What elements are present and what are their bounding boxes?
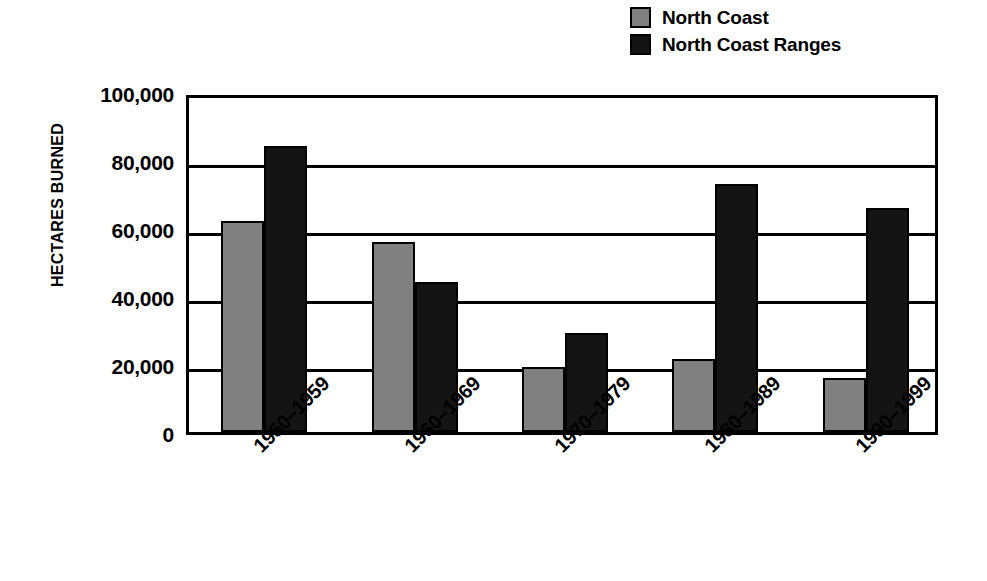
y-axis-tick-label: 80,000 xyxy=(0,151,174,175)
y-axis-tick-label: 40,000 xyxy=(0,287,174,311)
y-axis-tick-label: 60,000 xyxy=(0,219,174,243)
bars-layer xyxy=(189,98,935,432)
legend-swatch-icon-north-coast-ranges xyxy=(630,34,651,55)
legend-label-north-coast-ranges: North Coast Ranges xyxy=(662,34,841,56)
plot-area xyxy=(186,95,938,435)
bar-north-coast-1990-1999 xyxy=(823,378,866,432)
y-axis-tick-label: 100,000 xyxy=(0,83,174,107)
legend-swatch-icon-north-coast xyxy=(630,7,651,28)
bar-chart-figure: North Coast North Coast Ranges HECTARES … xyxy=(0,0,987,581)
bar-north-coast-1960-1969 xyxy=(372,242,415,432)
x-axis-tick-label: 1970–1979 xyxy=(550,441,566,457)
bar-north-coast-1980-1989 xyxy=(672,359,715,432)
legend-item-north-coast: North Coast xyxy=(630,4,970,31)
legend-label-north-coast: North Coast xyxy=(662,7,769,29)
x-axis-tick-label: 1960–1969 xyxy=(400,441,416,457)
x-axis-tick-label: 1980–1989 xyxy=(700,441,716,457)
y-axis-tick-label: 20,000 xyxy=(0,355,174,379)
y-axis-tick-labels: 020,00040,00060,00080,000100,000 xyxy=(0,95,174,435)
x-axis-tick-label: 1990–1999 xyxy=(851,441,867,457)
chart-legend: North Coast North Coast Ranges xyxy=(630,4,970,58)
legend-item-north-coast-ranges: North Coast Ranges xyxy=(630,31,970,58)
bar-north-coast-1970-1979 xyxy=(522,367,565,432)
x-axis-tick-labels: 1950–19591960–19691970–19791980–19891990… xyxy=(186,441,938,581)
y-axis-tick-label: 0 xyxy=(0,423,174,447)
bar-north-coast-1950-1959 xyxy=(221,221,264,432)
x-axis-tick-label: 1950–1959 xyxy=(249,441,265,457)
